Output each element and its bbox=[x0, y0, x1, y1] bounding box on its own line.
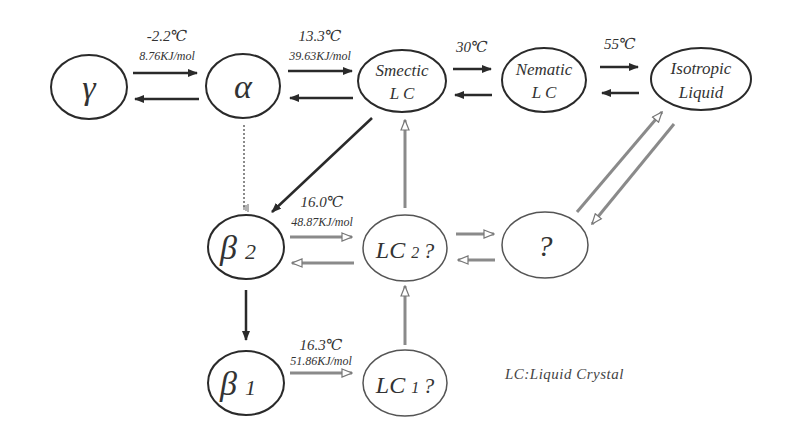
node-nematic-lc: Nematic L C bbox=[502, 48, 586, 112]
temp-smectic-nematic: 30℃ bbox=[455, 39, 488, 55]
arrows-gamma-alpha bbox=[133, 73, 199, 99]
node-gamma: γ bbox=[51, 55, 127, 119]
temp-nematic-isotropic: 55℃ bbox=[604, 36, 636, 52]
hollow-arrows bbox=[290, 112, 674, 373]
svg-text:LC 2 ?: LC 2 ? bbox=[375, 237, 434, 263]
arrows-nematic-isotropic bbox=[600, 67, 639, 93]
temp-beta2-lc2: 16.0℃ bbox=[300, 194, 343, 210]
lc2-main: LC bbox=[375, 237, 406, 263]
temp-beta1-lc1: 16.3℃ bbox=[299, 337, 342, 353]
label-alpha-smectic: 13.3℃ 39.63KJ/mol bbox=[288, 28, 351, 63]
enthalpy-gamma-alpha: 8.76KJ/mol bbox=[139, 49, 195, 63]
nematic-line2: L C bbox=[531, 83, 557, 102]
node-alpha: α bbox=[206, 54, 280, 118]
svg-text:β 2: β 2 bbox=[219, 229, 256, 266]
temp-gamma-alpha: -2.2℃ bbox=[147, 28, 188, 44]
arrows-smectic-nematic bbox=[453, 69, 492, 95]
enthalpy-beta2-lc2: 48.87KJ/mol bbox=[291, 215, 353, 229]
label-beta2-lc2: 16.0℃ 48.87KJ/mol bbox=[291, 194, 353, 229]
svg-text:β 1: β 1 bbox=[219, 365, 256, 402]
node-lc2: LC 2 ? bbox=[363, 215, 447, 281]
beta1-sub: 1 bbox=[245, 375, 256, 400]
node-smectic-lc: Smectic L C bbox=[358, 50, 446, 112]
legend-note: LC:Liquid Crystal bbox=[504, 366, 624, 382]
node-beta1: β 1 bbox=[208, 351, 284, 415]
arrow-unknown-to-isotropic bbox=[577, 112, 662, 212]
node-unknown: ? bbox=[502, 212, 588, 278]
temp-alpha-smectic: 13.3℃ bbox=[298, 28, 341, 44]
lc1-suffix: ? bbox=[423, 373, 434, 398]
label-beta1-lc1: 16.3℃ 51.86KJ/mol bbox=[290, 337, 352, 368]
enthalpy-beta1-lc1: 51.86KJ/mol bbox=[290, 354, 352, 368]
node-lc1: LC 1 ? bbox=[363, 350, 447, 416]
phase-diagram: γ α Smectic L C Nematic L C Isotropic Li… bbox=[0, 0, 802, 434]
lc2-suffix: ? bbox=[423, 238, 434, 263]
lc1-sub: 1 bbox=[411, 379, 419, 396]
label-gamma-alpha: -2.2℃ 8.76KJ/mol bbox=[139, 28, 195, 63]
lc1-main: LC bbox=[375, 372, 406, 398]
alpha-label: α bbox=[234, 68, 253, 105]
beta1-symbol: β bbox=[219, 365, 237, 402]
node-beta2: β 2 bbox=[208, 215, 284, 279]
unknown-label: ? bbox=[538, 229, 553, 262]
smectic-line2: L C bbox=[389, 84, 415, 103]
gamma-label: γ bbox=[82, 69, 97, 106]
svg-text:LC 1 ?: LC 1 ? bbox=[375, 372, 434, 398]
isotropic-line1: Isotropic bbox=[670, 59, 732, 78]
nematic-line1: Nematic bbox=[515, 60, 573, 79]
isotropic-line2: Liquid bbox=[678, 83, 724, 102]
arrow-isotropic-to-unknown bbox=[592, 124, 674, 224]
node-isotropic-liquid: Isotropic Liquid bbox=[651, 48, 751, 110]
beta2-symbol: β bbox=[219, 229, 237, 266]
enthalpy-alpha-smectic: 39.63KJ/mol bbox=[288, 49, 351, 63]
beta2-sub: 2 bbox=[245, 239, 256, 264]
arrows-alpha-smectic bbox=[288, 71, 353, 98]
lc2-sub: 2 bbox=[411, 244, 419, 261]
smectic-line1: Smectic bbox=[376, 61, 429, 80]
